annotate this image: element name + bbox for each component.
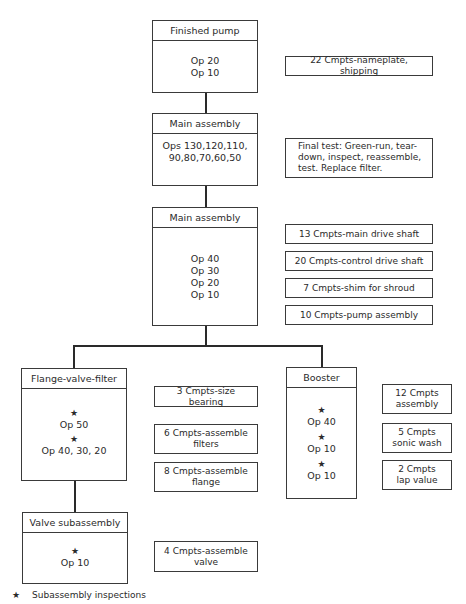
op-label: Op 40 (191, 253, 220, 265)
connector-main1-main2 (205, 185, 207, 207)
note-booster-assembly: 12 Cmpts assembly (382, 384, 452, 414)
inspection-star-icon: ★ (317, 458, 325, 470)
op-label: Op 20 (191, 55, 220, 67)
legend-label: Subassembly inspections (32, 590, 146, 600)
legend: ★ Subassembly inspections (12, 589, 146, 601)
inspection-star-icon: ★ (70, 433, 78, 445)
note-text: 2 Cmpts (398, 464, 436, 475)
note-text: 6 Cmpts-assemble (164, 428, 248, 439)
node-booster: Booster ★ Op 40 ★ Op 10 ★ Op 10 (286, 367, 357, 499)
op-label: Op 50 (60, 419, 89, 431)
connector-finished-main1 (205, 92, 207, 113)
node-finished-pump: Finished pump Op 20 Op 10 (152, 20, 258, 93)
note-text: sonic wash (392, 438, 441, 449)
note-text: assembly (396, 399, 439, 410)
note-size-bearing: 3 Cmpts-size bearing (154, 386, 258, 407)
connector-main2-branch (205, 325, 207, 347)
note-text: valve (194, 557, 218, 568)
note-text: 20 Cmpts-control drive shaft (295, 256, 424, 267)
note-assemble-filters: 6 Cmpts-assemble filters (154, 424, 258, 454)
op-label: Op 40, 30, 20 (42, 445, 107, 457)
note-text: flange (192, 477, 220, 488)
note-text: down, inspect, reassemble, (298, 152, 421, 163)
note-text: lap value (396, 475, 437, 486)
note-main-drive-shaft: 13 Cmpts-main drive shaft (285, 224, 433, 244)
legend-star-icon: ★ (12, 589, 20, 601)
note-text: 10 Cmpts-pump assembly (300, 310, 418, 321)
node-valve-subassembly: Valve subassembly ★ Op 10 (22, 512, 128, 584)
node-title: Flange-valve-filter (22, 369, 126, 389)
node-flange-valve-filter: Flange-valve-filter ★ Op 50 ★ Op 40, 30,… (21, 368, 127, 481)
connector-branch-booster (321, 345, 323, 367)
inspection-star-icon: ★ (70, 407, 78, 419)
note-text: 12 Cmpts (395, 388, 438, 399)
node-main-assembly-ops: Main assembly Op 40 Op 30 Op 20 Op 10 (152, 207, 258, 326)
inspection-star-icon: ★ (317, 404, 325, 416)
node-title: Finished pump (153, 21, 257, 41)
op-label: Op 40 (307, 416, 336, 428)
note-text: 5 Cmpts (398, 427, 436, 438)
branch-horizontal-line (73, 345, 323, 347)
note-assemble-valve: 4 Cmpts-assemble valve (154, 541, 258, 572)
note-text: 7 Cmpts-shim for shroud (303, 283, 414, 294)
node-title: Main assembly (153, 208, 257, 228)
op-label: 90,80,70,60,50 (169, 152, 242, 164)
note-sonic-wash: 5 Cmpts sonic wash (382, 423, 452, 453)
note-text: 13 Cmpts-main drive shaft (299, 229, 419, 240)
note-assemble-flange: 8 Cmpts-assemble flange (154, 462, 258, 492)
note-text: 3 Cmpts-size bearing (159, 386, 253, 408)
note-lap-value: 2 Cmpts lap value (382, 460, 452, 490)
note-text: 8 Cmpts-assemble (164, 466, 248, 477)
note-text: 22 Cmpts-nameplate, shipping (290, 55, 428, 77)
node-title: Main assembly (153, 114, 257, 134)
node-title: Valve subassembly (23, 513, 127, 533)
note-control-drive-shaft: 20 Cmpts-control drive shaft (285, 251, 433, 271)
connector-branch-flange (73, 345, 75, 368)
node-main-assembly-final: Main assembly Ops 130,120,110, 90,80,70,… (152, 113, 258, 186)
note-text: 4 Cmpts-assemble (164, 546, 248, 557)
inspection-star-icon: ★ (71, 545, 79, 557)
op-label: Op 10 (307, 470, 336, 482)
op-label: Op 20 (191, 277, 220, 289)
inspection-star-icon: ★ (317, 431, 325, 443)
note-shim-shroud: 7 Cmpts-shim for shroud (285, 278, 433, 298)
op-label: Op 10 (191, 67, 220, 79)
note-pump-assembly: 10 Cmpts-pump assembly (285, 305, 433, 325)
op-label: Op 10 (307, 443, 336, 455)
note-finished-pump: 22 Cmpts-nameplate, shipping (285, 56, 433, 76)
note-text: Final test: Green-run, tear- (298, 141, 417, 152)
note-text: test. Replace filter. (298, 163, 382, 174)
op-label: Op 10 (61, 557, 90, 569)
op-label: Op 10 (191, 289, 220, 301)
connector-flange-valve (74, 480, 76, 512)
note-main-assembly-final: Final test: Green-run, tear- down, inspe… (285, 138, 433, 178)
node-title: Booster (287, 368, 356, 388)
op-label: Ops 130,120,110, (163, 140, 248, 152)
note-text: filters (193, 439, 219, 450)
op-label: Op 30 (191, 265, 220, 277)
